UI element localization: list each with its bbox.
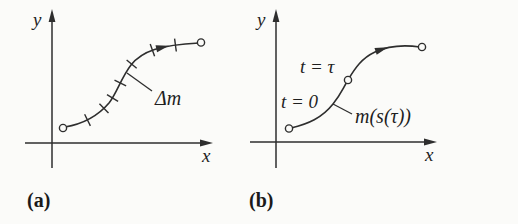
panel-a-tag: (a) <box>27 189 50 212</box>
panel-b: y x t = τ t = 0 m(s(τ)) (b) <box>249 9 437 212</box>
y-axis-label: y <box>31 9 42 30</box>
arc-length-tick <box>114 80 126 86</box>
position-function-leader-line <box>333 104 352 114</box>
y-axis-arrowhead-icon <box>49 9 56 22</box>
textbook-figure: y x Δm (a) y x <box>0 0 518 224</box>
y-axis-label: y <box>255 9 266 30</box>
delta-m-leader-line <box>127 73 152 91</box>
curve-end-marker <box>197 39 204 46</box>
tau-time-label: t = τ <box>300 56 336 77</box>
curve-start-marker <box>285 125 292 132</box>
x-axis-label: x <box>424 144 434 165</box>
curve-tau-point-marker <box>344 76 351 83</box>
curve-direction-arrowhead-icon <box>374 47 387 54</box>
panel-a: y x Δm (a) <box>25 9 213 212</box>
position-function-label: m(s(τ)) <box>355 105 411 128</box>
x-axis-label: x <box>201 145 211 166</box>
y-axis-arrowhead-icon <box>273 9 280 22</box>
arc-length-tick <box>175 39 177 52</box>
start-time-label: t = 0 <box>281 91 319 112</box>
curve-direction-arrowhead-icon <box>156 45 169 52</box>
curve-start-marker <box>59 124 66 131</box>
figure-canvas: y x Δm (a) y x <box>0 0 518 224</box>
arc-length-tick <box>107 95 118 102</box>
delta-m-annotation: Δm <box>154 87 181 109</box>
panel-b-tag: (b) <box>249 189 273 212</box>
curve-end-marker <box>418 43 425 50</box>
